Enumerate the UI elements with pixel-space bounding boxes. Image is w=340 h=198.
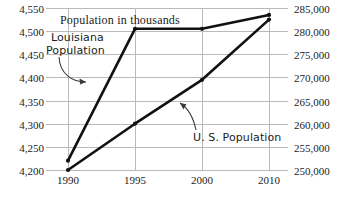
chart-title: Population in thousands	[60, 13, 180, 27]
louisiana-series-label-line2: Population	[46, 45, 105, 58]
population-line-chart: 4,550 4,500 4,450 4,400 4,350 4,300 4,25…	[0, 0, 340, 198]
us-series-label: U. S. Population	[193, 132, 281, 145]
series-layer	[0, 0, 340, 198]
louisiana-callout-arrow	[59, 57, 86, 85]
us-callout-arrow	[180, 103, 196, 130]
